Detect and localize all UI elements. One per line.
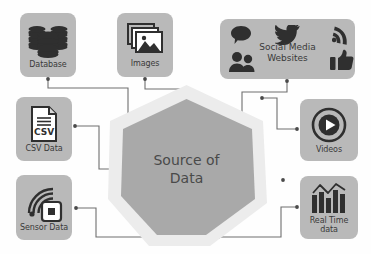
node-images-label: Images: [131, 59, 160, 68]
node-videos-label: Videos: [316, 145, 342, 154]
node-sensor-data[interactable]: Sensor Data: [16, 175, 72, 240]
sensor-signal-chip-icon: [24, 184, 64, 222]
node-csv-data[interactable]: CSV CSV Data: [16, 97, 72, 161]
node-realtime-data-label: Real Time data: [310, 216, 348, 234]
node-images[interactable]: Images: [117, 13, 173, 77]
center-node-heptagon: [104, 83, 269, 249]
diagram-canvas: Source of Data: [0, 0, 371, 254]
node-social-media-label: Social Media Websites: [220, 42, 355, 64]
node-videos[interactable]: Videos: [300, 99, 358, 161]
heptagon-shape: [104, 83, 269, 249]
node-social-media[interactable]: Social Media Websites: [220, 19, 355, 79]
node-sensor-data-label: Sensor Data: [20, 223, 68, 232]
bar-chart-trend-icon: [309, 181, 349, 215]
play-button-circle-icon: [310, 106, 348, 144]
node-database[interactable]: Database: [20, 13, 76, 77]
node-realtime-data[interactable]: Real Time data: [300, 176, 358, 239]
images-photo-stack-icon: [125, 22, 165, 58]
node-csv-data-label: CSV Data: [26, 144, 63, 153]
database-stack-icon: [28, 21, 68, 59]
csv-icon-text: CSV: [34, 127, 54, 137]
csv-file-icon: CSV: [28, 105, 60, 143]
node-database-label: Database: [29, 60, 66, 69]
